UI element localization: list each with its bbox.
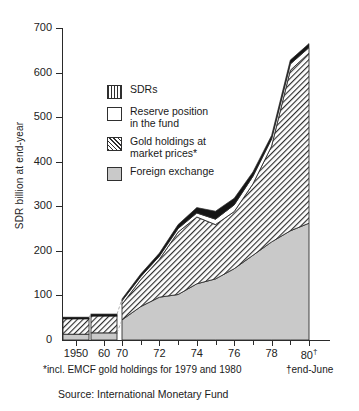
legend-item-label: Foreign exchange — [130, 166, 214, 178]
gray-fill-swatch-icon — [107, 167, 122, 181]
diagonal-hatch-swatch-icon — [107, 137, 122, 151]
chart-legend: SDRsReserve positionin the fundGold hold… — [107, 84, 257, 188]
bar-segment-cap — [63, 317, 89, 319]
legend-item-label: Gold holdings atmarket prices* — [130, 136, 206, 159]
footnote-left: *incl. EMCF gold holdings for 1979 and 1… — [43, 364, 241, 375]
legend-item: Reserve positionin the fund — [107, 106, 257, 129]
chart-figure: SDR billion at end-year 0100200300400500… — [0, 0, 359, 411]
vertical-lines-swatch-icon — [107, 85, 122, 99]
guide-line — [117, 320, 122, 333]
bar-segment — [63, 319, 89, 335]
legend-item-label: Reserve positionin the fund — [130, 106, 208, 129]
legend-item-label: SDRs — [130, 84, 157, 96]
legend-item: Gold holdings atmarket prices* — [107, 136, 257, 159]
white-swatch-icon — [107, 107, 122, 121]
chart-plot-area — [0, 0, 359, 411]
legend-item: SDRs — [107, 84, 257, 99]
bar-segment — [91, 316, 117, 333]
legend-item: Foreign exchange — [107, 166, 257, 181]
bar-segment — [63, 334, 89, 340]
bar-segment — [91, 333, 117, 340]
source-note: Source: International Monetary Fund — [58, 388, 228, 400]
bar-segment-cap — [91, 314, 117, 316]
footnote-right: †end-June — [286, 364, 333, 375]
guide-line — [117, 299, 122, 314]
